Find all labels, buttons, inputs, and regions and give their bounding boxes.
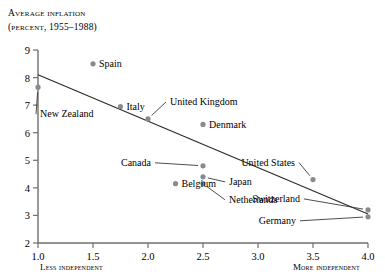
data-point-label: Denmark <box>209 119 246 130</box>
label-leader-line <box>304 199 363 209</box>
y-tick-label: 9 <box>25 45 30 56</box>
data-point-label: Germany <box>259 215 296 226</box>
x-tick-label: 1.0 <box>31 251 44 262</box>
axes-layer: 234567891.01.52.02.53.03.54.0 <box>25 45 375 262</box>
data-point-marker <box>145 116 150 121</box>
chart-subtitle: (percent, 1955–1988) <box>8 22 97 33</box>
axis-captions: Less independent More independent <box>40 262 360 272</box>
data-point-marker <box>35 85 40 90</box>
data-point-label: Canada <box>121 157 152 168</box>
data-point-marker <box>200 122 205 127</box>
chart-title-block: Average inflation (percent, 1955–1988) <box>8 8 97 33</box>
data-point-marker <box>118 104 123 109</box>
x-tick-label: 3.5 <box>306 251 319 262</box>
inflation-independence-scatter-chart: Average inflation (percent, 1955–1988) 2… <box>0 0 385 277</box>
x-axis-left-caption: Less independent <box>40 262 103 272</box>
data-point-marker <box>90 61 95 66</box>
chart-canvas: Average inflation (percent, 1955–1988) 2… <box>0 0 385 277</box>
data-point-label: Japan <box>229 176 252 187</box>
y-tick-label: 7 <box>25 100 30 111</box>
data-point-label: Italy <box>127 101 145 112</box>
y-tick-label: 4 <box>25 183 31 194</box>
label-leader-line <box>152 102 166 116</box>
data-point-label: Belgium <box>182 178 217 189</box>
y-tick-label: 8 <box>25 73 30 84</box>
x-axis-right-caption: More independent <box>293 262 360 272</box>
data-point-label: United States <box>241 157 295 168</box>
data-point-label: Spain <box>99 58 122 69</box>
point-labels-layer: SpainNew ZealandItalyUnited KingdomDenma… <box>40 58 300 226</box>
data-point-marker <box>365 207 370 212</box>
label-leader-line <box>299 163 310 176</box>
data-points-layer <box>35 61 370 219</box>
y-tick-label: 2 <box>25 238 30 249</box>
data-point-marker <box>200 163 205 168</box>
y-tick-label: 5 <box>25 155 30 166</box>
data-point-marker <box>310 177 315 182</box>
x-tick-label: 4.0 <box>361 251 374 262</box>
y-tick-label: 6 <box>25 128 30 139</box>
data-point-label: New Zealand <box>40 108 94 119</box>
y-tick-label: 3 <box>25 210 30 221</box>
data-point-label: United Kingdom <box>170 96 238 107</box>
x-tick-label: 2.5 <box>196 251 209 262</box>
data-point-label: Switzerland <box>252 193 300 204</box>
x-tick-label: 2.0 <box>141 251 154 262</box>
data-point-marker <box>173 181 178 186</box>
data-point-marker <box>365 214 370 219</box>
label-leader-line <box>300 217 363 221</box>
x-tick-label: 3.0 <box>251 251 264 262</box>
chart-title: Average inflation <box>8 8 86 18</box>
x-tick-label: 1.5 <box>86 251 99 262</box>
label-leader-line <box>155 163 198 166</box>
